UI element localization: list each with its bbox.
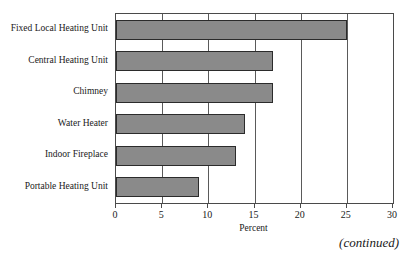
plot-area xyxy=(115,13,394,204)
category-label: Central Heating Unit xyxy=(0,45,111,77)
bar-row xyxy=(116,77,393,109)
clipped-title-remnant xyxy=(150,0,270,2)
figure-container: Fixed Local Heating UnitCentral Heating … xyxy=(0,0,411,260)
x-axis-tick-labels: 051015202530 xyxy=(115,208,392,222)
bar xyxy=(116,146,236,166)
bar-row xyxy=(116,14,393,46)
bar xyxy=(116,83,273,103)
tick-label-5: 5 xyxy=(159,208,164,222)
bar xyxy=(116,177,199,197)
tick-label-15: 15 xyxy=(249,208,259,222)
bar-row xyxy=(116,109,393,141)
continued-note: (continued) xyxy=(339,235,399,251)
tick-label-30: 30 xyxy=(387,208,397,222)
category-label: Water Heater xyxy=(0,108,111,140)
category-label: Portable Heating Unit xyxy=(0,171,111,203)
x-axis-title: Percent xyxy=(115,223,392,233)
bar-row xyxy=(116,46,393,78)
category-label: Fixed Local Heating Unit xyxy=(0,13,111,45)
bar xyxy=(116,51,273,71)
bar-row xyxy=(116,172,393,204)
bar-series xyxy=(116,14,393,203)
bar xyxy=(116,114,245,134)
bar-row xyxy=(116,140,393,172)
tick-label-20: 20 xyxy=(295,208,305,222)
category-label: Indoor Fireplace xyxy=(0,139,111,171)
tick-label-10: 10 xyxy=(202,208,212,222)
category-label: Chimney xyxy=(0,76,111,108)
bar xyxy=(116,20,347,40)
category-axis-labels: Fixed Local Heating UnitCentral Heating … xyxy=(0,13,111,202)
tick-label-25: 25 xyxy=(341,208,351,222)
tick-label-0: 0 xyxy=(113,208,118,222)
